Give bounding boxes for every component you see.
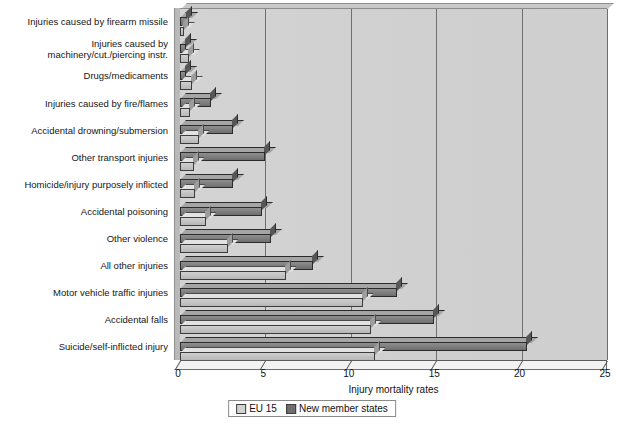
bar-eu-15-1 [180,54,189,63]
x-tick-label-25: 25 [599,368,610,379]
x-tick-label-0: 0 [175,368,181,379]
bar-eu-15-4 [180,135,199,144]
bar-front-face [180,108,190,117]
legend-label-eu-15: EU 15 [249,403,277,414]
category-label-1: Injuries caused by machinery/cut./pierci… [0,39,168,60]
bar-front-face [180,135,199,144]
category-label-12: Suicide/self-inflicted injury [0,342,168,353]
chart-legend: EU 15 New member states [228,400,396,417]
category-label-5: Other transport injuries [0,153,168,164]
plot-area [180,8,607,360]
legend-item-new-member-states: New member states [286,403,388,414]
category-label-3: Injuries caused by fire/flames [0,99,168,110]
category-label-0: Injuries caused by firearm missile [0,17,168,28]
bar-front-face [180,271,286,280]
legend-swatch-eu-15 [236,404,246,414]
injury-mortality-bar-chart: Injuries caused by firearm missileInjuri… [0,0,624,425]
bar-front-face [180,298,363,307]
x-axis-line [180,360,607,361]
category-label-4: Accidental drowning/submersion [0,126,168,137]
gridline-10 [351,9,352,360]
x-tick-label-15: 15 [429,368,440,379]
category-label-10: Motor vehicle traffic injuries [0,288,168,299]
category-axis-labels: Injuries caused by firearm missileInjuri… [0,8,174,360]
bar-front-face [180,162,194,171]
gridline-20 [522,9,523,360]
bar-front-face [180,217,206,226]
category-label-11: Accidental falls [0,315,168,326]
bar-eu-15-6 [180,189,195,198]
bar-eu-15-11 [180,325,371,334]
bar-eu-15-5 [180,162,194,171]
category-label-7: Accidental poisoning [0,207,168,218]
x-tick-label-20: 20 [514,368,525,379]
bar-eu-15-2 [180,81,192,90]
gridline-5 [265,9,266,360]
x-tick-label-10: 10 [343,368,354,379]
bar-front-face [180,244,228,253]
bar-front-face [180,325,371,334]
bar-front-face [180,81,192,90]
gridline-25 [607,9,608,360]
legend-label-new-member-states: New member states [299,403,388,414]
legend-swatch-new-member-states [286,404,296,414]
bar-eu-15-3 [180,108,190,117]
x-tick-label-5: 5 [261,368,267,379]
x-axis-title: Injury mortality rates [180,384,607,395]
bar-eu-15-7 [180,217,206,226]
legend-item-eu-15: EU 15 [236,403,277,414]
category-label-2: Drugs/medicaments [0,71,168,82]
category-label-9: All other injuries [0,261,168,272]
bar-eu-15-8 [180,244,228,253]
plot-floor [174,360,607,370]
bar-front-face [180,189,195,198]
bar-eu-15-10 [180,298,363,307]
bar-eu-15-9 [180,271,286,280]
bar-front-face [180,27,184,36]
bar-eu-15-0 [180,27,184,36]
bar-front-face [180,54,189,63]
category-label-8: Other violence [0,234,168,245]
category-label-6: Homicide/injury purposely inflicted [0,180,168,191]
